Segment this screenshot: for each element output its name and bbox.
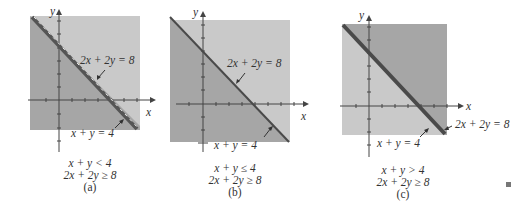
panel-b-inequality-2: 2x + 2y ≥ 8 [190, 174, 280, 186]
y-axis-arrow-icon [56, 9, 62, 15]
x-axis-arrow-icon [150, 97, 156, 103]
panel-a-inequality-2: 2x + 2y ≥ 8 [45, 169, 135, 181]
end-of-proof-marker [506, 182, 511, 187]
panel-b-line-label-top: 2x + 2y = 8 [227, 57, 281, 69]
y-axis-arrow-icon [200, 11, 206, 17]
panel-b-caption: x + y ≤ 4 2x + 2y ≥ 8 (b) [190, 162, 280, 198]
panel-a-line-label-bottom: x + y = 4 [71, 127, 114, 139]
panel-c-graph [340, 15, 464, 157]
panel-c-label: (c) [358, 188, 448, 200]
panel-b-graph [170, 11, 309, 152]
panel-c-inequality-2: 2x + 2y ≥ 8 [358, 176, 448, 188]
panel-a-x-axis-label: x [146, 106, 151, 118]
panel-b-x-axis-label: x [301, 110, 306, 122]
panel-c-line-label-bottom: x + y = 4 [377, 137, 420, 149]
x-axis-arrow-icon [303, 101, 309, 107]
panel-c-inequality-1: x + y > 4 [358, 164, 448, 176]
panel-b-y-axis-label: y [193, 6, 198, 18]
panel-c-y-axis-label: y [359, 9, 364, 21]
panel-a-line-label-top: 2x + 2y = 8 [80, 54, 134, 66]
y-axis-arrow-icon [366, 15, 372, 21]
panel-c-x-axis-label: x [466, 100, 471, 112]
panel-c-caption: x + y > 4 2x + 2y ≥ 8 (c) [358, 164, 448, 200]
panel-a-inequality-1: x + y < 4 [45, 157, 135, 169]
panel-a-y-axis-label: y [50, 5, 55, 17]
panel-b-inequality-1: x + y ≤ 4 [190, 162, 280, 174]
panel-b-line-label-bottom: x + y = 4 [214, 139, 257, 151]
x-axis-arrow-icon [458, 103, 464, 109]
panel-c-line-label-right: 2x + 2y = 8 [455, 118, 509, 130]
panel-b-label: (b) [190, 186, 280, 198]
panel-a-label: (a) [45, 181, 135, 193]
panel-a-caption: x + y < 4 2x + 2y ≥ 8 (a) [45, 157, 135, 193]
